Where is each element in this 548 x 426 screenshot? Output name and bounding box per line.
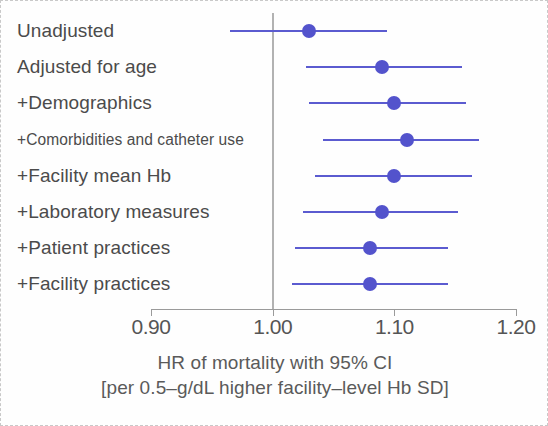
point-estimate-marker	[375, 205, 389, 219]
row-label: +Laboratory measures	[17, 194, 210, 230]
point-estimate-marker	[400, 133, 414, 147]
x-axis-tick-label: 1.00	[253, 315, 292, 339]
point-estimate-marker	[387, 96, 401, 110]
row-label: +Demographics	[17, 85, 152, 121]
row-label: Unadjusted	[17, 13, 114, 49]
forest-row: +Patient practices	[1, 230, 548, 266]
row-label: +Facility practices	[17, 266, 170, 302]
row-label: +Comorbidities and catheter use	[17, 122, 244, 158]
row-label: +Facility mean Hb	[17, 158, 171, 194]
x-axis-tick-label: 0.90	[132, 315, 171, 339]
forest-row: +Facility mean Hb	[1, 158, 548, 194]
x-axis	[151, 309, 516, 310]
forest-row: +Laboratory measures	[1, 194, 548, 230]
point-estimate-marker	[375, 60, 389, 74]
forest-row: +Comorbidities and catheter use	[1, 122, 548, 158]
caption-line-2: [per 0.5–g/dL higher facility–level Hb S…	[1, 375, 548, 400]
forest-row: Adjusted for age	[1, 49, 548, 85]
forest-plot-figure: UnadjustedAdjusted for age+Demographics+…	[0, 0, 548, 426]
axis-caption: HR of mortality with 95% CI [per 0.5–g/d…	[1, 350, 548, 400]
x-axis-tick-label: 1.20	[497, 315, 536, 339]
caption-line-1: HR of mortality with 95% CI	[1, 350, 548, 375]
row-label: Adjusted for age	[17, 49, 157, 85]
forest-row: +Demographics	[1, 85, 548, 121]
point-estimate-marker	[363, 241, 377, 255]
forest-row: Unadjusted	[1, 13, 548, 49]
row-label: +Patient practices	[17, 230, 170, 266]
point-estimate-marker	[363, 277, 377, 291]
point-estimate-marker	[302, 24, 316, 38]
point-estimate-marker	[387, 169, 401, 183]
x-axis-tick-label: 1.10	[375, 315, 414, 339]
forest-row: +Facility practices	[1, 266, 548, 302]
